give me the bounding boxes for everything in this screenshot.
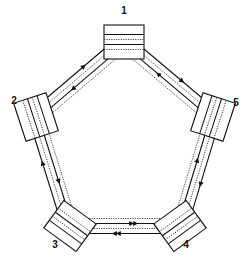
dual-ring-diagram: 12345 xyxy=(0,0,250,261)
station-label-2: 2 xyxy=(11,95,17,106)
station-label-4: 4 xyxy=(183,239,189,250)
station-label-3: 3 xyxy=(52,239,58,250)
ring-links xyxy=(29,36,220,236)
station-box xyxy=(14,93,59,142)
station-5 xyxy=(191,93,236,142)
station-label-1: 1 xyxy=(121,5,127,16)
station-label-5: 5 xyxy=(233,97,239,108)
station-box xyxy=(104,25,144,59)
station-4 xyxy=(154,200,206,251)
station-box xyxy=(191,93,236,142)
station-1 xyxy=(104,25,144,59)
ring-nodes xyxy=(14,25,236,252)
station-box xyxy=(154,200,206,251)
station-2 xyxy=(14,93,59,142)
